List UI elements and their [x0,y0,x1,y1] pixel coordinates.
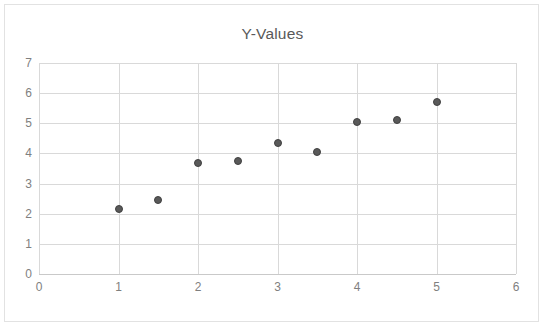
gridline-x-0 [39,63,40,274]
data-point[interactable] [154,196,162,204]
plot-area: 01234567 0123456 [39,63,516,274]
gridline-x-6 [516,63,517,274]
data-point[interactable] [393,116,401,124]
x-tick-label-6: 6 [513,280,520,294]
data-point[interactable] [353,118,361,126]
y-tick-label-4: 4 [25,146,32,160]
gridline-x-1 [119,63,120,274]
x-tick-label-0: 0 [36,280,43,294]
y-tick-label-5: 5 [25,116,32,130]
data-point[interactable] [433,98,441,106]
y-tick-label-2: 2 [25,207,32,221]
gridline-x-3 [278,63,279,274]
data-point[interactable] [234,157,242,165]
data-point[interactable] [194,159,202,167]
y-tick-label-1: 1 [25,237,32,251]
gridline-x-5 [437,63,438,274]
x-tick-label-3: 3 [274,280,281,294]
x-tick-label-5: 5 [433,280,440,294]
y-tick-label-6: 6 [25,86,32,100]
gridline-y-0 [39,274,516,275]
x-tick-label-4: 4 [354,280,361,294]
data-point[interactable] [313,148,321,156]
y-tick-label-0: 0 [25,267,32,281]
y-tick-label-3: 3 [25,177,32,191]
chart-title: Y-Values [5,25,540,43]
x-tick-label-2: 2 [195,280,202,294]
gridline-x-2 [198,63,199,274]
x-tick-label-1: 1 [115,280,122,294]
gridline-x-4 [357,63,358,274]
data-point[interactable] [115,205,123,213]
chart-container: Y-Values 01234567 0123456 [4,4,539,322]
data-point[interactable] [274,139,282,147]
y-tick-label-7: 7 [25,56,32,70]
